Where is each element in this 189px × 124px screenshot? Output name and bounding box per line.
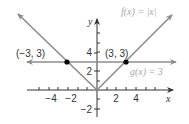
g-label: g(x) = 3 <box>130 66 163 78</box>
point-right <box>123 59 128 64</box>
x-tick-4: 4 <box>133 93 139 104</box>
graph: f(x) = |x| g(x) = 3 (−3, 3) (3, 3) y x −… <box>0 0 189 124</box>
f-label: f(x) = |x| <box>121 6 157 18</box>
y-tick-4: 4 <box>86 47 92 58</box>
point-right-label: (3, 3) <box>105 48 128 59</box>
point-left <box>64 59 69 64</box>
x-axis-label: x <box>165 93 171 104</box>
y-tick-m2: −2 <box>81 104 93 115</box>
y-axis-label: y <box>87 16 93 27</box>
x-tick-m4: −4 <box>45 93 57 104</box>
y-axis <box>94 19 100 117</box>
x-tick-m2: −2 <box>65 93 77 104</box>
y-tick-2: 2 <box>86 66 92 77</box>
x-tick-2: 2 <box>113 93 119 104</box>
point-left-label: (−3, 3) <box>16 48 45 59</box>
